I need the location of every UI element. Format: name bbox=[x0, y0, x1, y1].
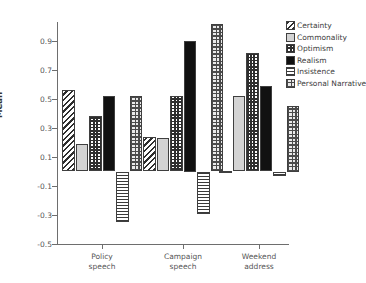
legend-swatch-icon bbox=[286, 56, 295, 65]
bar bbox=[287, 106, 300, 171]
bar bbox=[233, 96, 246, 171]
y-tick-label: -0.1 bbox=[22, 183, 52, 191]
x-tick-mark bbox=[183, 244, 184, 249]
x-tick-label: Weekendaddress bbox=[222, 252, 296, 272]
bar bbox=[76, 144, 89, 172]
legend-label: Insistence bbox=[297, 67, 335, 76]
y-tick-label: 0.1 bbox=[22, 154, 52, 162]
x-tick-mark bbox=[102, 244, 103, 249]
bar bbox=[246, 53, 259, 172]
x-tick-label: Policyspeech bbox=[65, 252, 139, 272]
legend-swatch-icon bbox=[286, 67, 295, 76]
legend-label: Realism bbox=[297, 56, 326, 65]
bar bbox=[62, 90, 75, 171]
legend-swatch-icon bbox=[286, 44, 295, 53]
x-tick-label-line: Policy bbox=[65, 252, 139, 262]
bar bbox=[89, 116, 102, 171]
y-tick-label: 0.3 bbox=[22, 125, 52, 133]
bar bbox=[273, 172, 286, 176]
y-axis-title: Mean bbox=[0, 92, 4, 118]
bar bbox=[260, 86, 273, 172]
x-tick-label-line: Campaign bbox=[146, 252, 220, 262]
bar bbox=[219, 171, 232, 174]
x-tick-label-line: address bbox=[222, 262, 296, 272]
x-tick-label-line: speech bbox=[146, 262, 220, 272]
legend-label: Commonality bbox=[297, 33, 347, 42]
x-tick-label-line: speech bbox=[65, 262, 139, 272]
bar bbox=[170, 96, 183, 171]
bar bbox=[116, 172, 129, 223]
legend-swatch-icon bbox=[286, 33, 295, 42]
bar bbox=[197, 172, 210, 214]
legend-item[interactable]: Personal Narrative bbox=[286, 78, 364, 89]
x-tick-label: Campaignspeech bbox=[146, 252, 220, 272]
x-axis-line bbox=[57, 244, 289, 245]
legend-label: Personal Narrative bbox=[297, 79, 366, 88]
legend-item[interactable]: Certainty bbox=[286, 20, 364, 31]
x-tick-mark bbox=[259, 244, 260, 249]
bar bbox=[130, 96, 143, 171]
y-tick-label: 0.7 bbox=[22, 67, 52, 75]
bar bbox=[184, 41, 197, 172]
legend-label: Certainty bbox=[297, 21, 332, 30]
plot-area bbox=[57, 22, 273, 244]
legend-item[interactable]: Insistence bbox=[286, 66, 364, 77]
legend-swatch-icon bbox=[286, 21, 295, 30]
y-tick-label: 0.5 bbox=[22, 96, 52, 104]
legend-swatch-icon bbox=[286, 79, 295, 88]
x-tick-label-line: Weekend bbox=[222, 252, 296, 262]
legend-item[interactable]: Realism bbox=[286, 55, 364, 66]
y-tick-label: 0.9 bbox=[22, 38, 52, 46]
y-tick-label: -0.5 bbox=[22, 241, 52, 249]
bar bbox=[157, 138, 170, 171]
y-tick-label: -0.3 bbox=[22, 212, 52, 220]
bar bbox=[143, 137, 156, 172]
legend-item[interactable]: Commonality bbox=[286, 32, 364, 43]
y-tick-mark bbox=[52, 244, 58, 245]
legend: CertaintyCommonalityOptimismRealismInsis… bbox=[286, 20, 364, 89]
bar bbox=[103, 96, 116, 171]
bar bbox=[211, 24, 224, 172]
legend-label: Optimism bbox=[297, 44, 333, 53]
legend-item[interactable]: Optimism bbox=[286, 43, 364, 54]
